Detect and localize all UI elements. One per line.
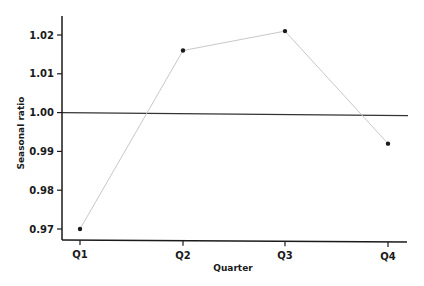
data-point-marker [283, 29, 287, 33]
y-tick-label: 1.01 [29, 68, 54, 79]
reference-line [62, 113, 408, 116]
x-axis-title: Quarter [213, 263, 253, 273]
x-axis-ticks: Q1Q2Q3Q4 [72, 240, 396, 262]
x-axis [62, 240, 407, 242]
y-tick-label: 0.99 [29, 146, 54, 157]
y-axis-ticks: 0.970.980.991.001.011.02 [29, 30, 62, 235]
y-tick-label: 1.02 [29, 30, 54, 41]
seasonal-ratio-chart: 0.970.980.991.001.011.02 Q1Q2Q3Q4 Quarte… [0, 0, 424, 286]
series-line [80, 31, 388, 229]
x-tick-label: Q4 [380, 251, 396, 262]
y-tick-label: 1.00 [29, 107, 54, 118]
x-tick-label: Q2 [175, 250, 191, 261]
y-axis-title: Seasonal ratio [16, 97, 26, 170]
data-point-marker [78, 227, 82, 231]
data-points [78, 29, 390, 231]
x-tick-label: Q1 [72, 249, 88, 260]
data-point-marker [181, 48, 185, 52]
x-tick-label: Q3 [277, 250, 293, 261]
y-tick-label: 0.98 [29, 185, 54, 196]
y-tick-label: 0.97 [29, 224, 54, 235]
data-point-marker [386, 141, 390, 145]
